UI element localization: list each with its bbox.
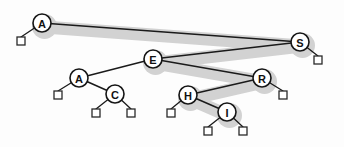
tree-node-s[interactable]: S — [291, 33, 309, 51]
node-circle-c — [106, 85, 124, 103]
tree-node-e[interactable]: E — [144, 50, 162, 68]
node-circle-i — [218, 103, 236, 121]
null-link-square-s-right — [314, 56, 322, 64]
null-link-square-a-left — [54, 91, 62, 99]
tree-node-r[interactable]: R — [253, 69, 271, 87]
node-circle-s — [291, 33, 309, 51]
binary-search-tree-figure: ASEARCHI — [0, 0, 344, 147]
node-circle-a — [33, 14, 51, 32]
tree-edge-e-a — [79, 59, 153, 78]
tree-node-c[interactable]: C — [106, 85, 124, 103]
tree-node-a[interactable]: A — [70, 69, 88, 87]
null-link-square-i-left — [204, 127, 212, 135]
null-link-square-c-left — [92, 109, 100, 117]
tree-node-i[interactable]: I — [218, 103, 236, 121]
null-link-square-h-left — [167, 109, 175, 117]
tree-node-a[interactable]: A — [33, 14, 51, 32]
tree-node-h[interactable]: H — [179, 86, 197, 104]
null-link-square-i-right — [239, 127, 247, 135]
null-link-square-r-right — [279, 91, 287, 99]
node-circle-h — [179, 86, 197, 104]
node-circle-r — [253, 69, 271, 87]
node-circle-e — [144, 50, 162, 68]
tree-canvas: ASEARCHI — [0, 0, 344, 147]
null-link-square-a-left — [17, 37, 25, 45]
null-link-square-c-right — [127, 109, 135, 117]
node-circle-a — [70, 69, 88, 87]
